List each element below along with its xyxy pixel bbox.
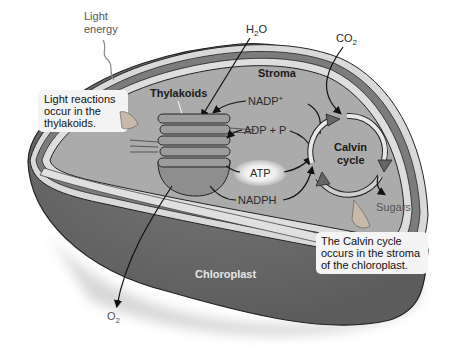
chloroplast-diagram: Light energy H2O CO2 Stroma Thylakoids N… bbox=[0, 0, 462, 352]
svg-text:occurs in the stroma: occurs in the stroma bbox=[321, 247, 421, 259]
calvin-cycle-label-line2: cycle bbox=[337, 154, 365, 166]
nadph-label: NADPH bbox=[238, 194, 277, 206]
thylakoids-label: Thylakoids bbox=[150, 87, 207, 99]
o2-label: O2 bbox=[107, 310, 121, 325]
light-energy-label-line1: Light bbox=[84, 10, 108, 22]
atp-label: ATP bbox=[250, 167, 271, 179]
h2o-label: H2O bbox=[246, 23, 267, 38]
light-reactions-callout: Light reactions occur in the thylakoids. bbox=[38, 90, 138, 132]
adp-p-label: ADP + P bbox=[244, 124, 286, 136]
stroma-label: Stroma bbox=[258, 67, 297, 79]
light-energy-label-line2: energy bbox=[84, 23, 118, 35]
svg-text:of the chloroplast.: of the chloroplast. bbox=[321, 259, 408, 271]
svg-text:occur in the: occur in the bbox=[44, 105, 101, 117]
svg-text:The Calvin cycle: The Calvin cycle bbox=[321, 235, 402, 247]
nadp-plus-label: NADP+ bbox=[248, 94, 284, 107]
calvin-cycle-label-line1: Calvin bbox=[334, 141, 367, 153]
atp-burst: ATP bbox=[234, 160, 286, 186]
light-energy-ray bbox=[103, 40, 114, 80]
svg-text:thylakoids.: thylakoids. bbox=[44, 117, 96, 129]
chloroplast-label: Chloroplast bbox=[195, 268, 256, 280]
sugars-label: Sugars bbox=[376, 201, 411, 213]
svg-text:Light reactions: Light reactions bbox=[44, 93, 116, 105]
co2-label: CO2 bbox=[336, 32, 358, 47]
